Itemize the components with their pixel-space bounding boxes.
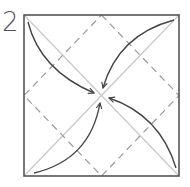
fold-diagram <box>0 0 190 187</box>
curved-arrow-icon <box>34 103 100 173</box>
